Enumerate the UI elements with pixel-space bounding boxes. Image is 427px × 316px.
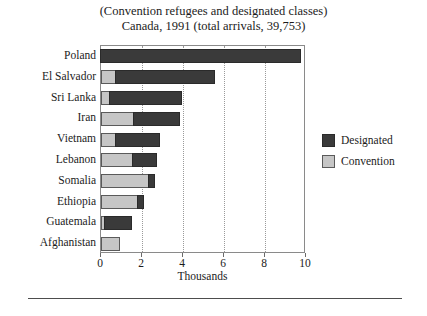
legend-swatch-convention: [322, 155, 335, 168]
y-axis-label-iran: Iran: [0, 111, 96, 124]
x-tick-label-6: 6: [220, 257, 226, 270]
bar-row: [101, 91, 182, 105]
x-axis-title: Thousands: [100, 270, 305, 282]
bar-segment-designated: [132, 153, 158, 167]
x-tick-label-8: 8: [261, 257, 267, 270]
bar-segment-designated: [133, 112, 180, 126]
y-axis-label-vietnam: Vietnam: [0, 132, 96, 145]
chart-legend: DesignatedConvention: [322, 131, 422, 173]
x-tick-label-2: 2: [138, 257, 144, 270]
y-axis-label-lebanon: Lebanon: [0, 153, 96, 166]
bar-segment-designated: [137, 195, 144, 209]
bar-segment-designated: [148, 174, 155, 188]
x-tick-label-0: 0: [97, 257, 103, 270]
bar-segment-designated: [115, 133, 160, 147]
bar-row: [101, 174, 155, 188]
chart-title-block: (Convention refugees and designated clas…: [0, 4, 427, 34]
bar-segment-convention: [101, 195, 138, 209]
bar-row: [101, 49, 301, 63]
legend-label-convention: Convention: [341, 155, 395, 168]
chart-title-line-2: Canada, 1991 (total arrivals, 39,753): [0, 19, 427, 34]
bar-row: [101, 112, 180, 126]
y-axis-label-ethiopia: Ethiopia: [0, 195, 96, 208]
bar-row: [101, 216, 132, 230]
bar-segment-convention: [101, 112, 134, 126]
legend-item-convention: Convention: [322, 152, 422, 171]
footer-divider: [28, 298, 402, 299]
y-axis-category-labels: PolandEl SalvadorSri LankaIranVietnamLeb…: [0, 45, 96, 253]
bars-layer: [101, 46, 304, 252]
bar-segment-convention: [101, 237, 120, 251]
bar-row: [101, 153, 157, 167]
plot-area: [100, 45, 305, 253]
y-axis-label-el-salvador: El Salvador: [0, 70, 96, 83]
bar-row: [101, 195, 144, 209]
y-axis-label-poland: Poland: [0, 49, 96, 62]
bar-segment-designated: [100, 49, 301, 63]
bar-segment-designated: [115, 70, 214, 84]
bar-segment-convention: [101, 133, 116, 147]
chart-figure: (Convention refugees and designated clas…: [0, 0, 427, 316]
bar-row: [101, 133, 160, 147]
bar-segment-convention: [101, 174, 149, 188]
bar-segment-convention: [101, 70, 116, 84]
bar-segment-designated: [109, 91, 182, 105]
chart-title-line-1: (Convention refugees and designated clas…: [0, 4, 427, 19]
x-tick-label-10: 10: [299, 257, 311, 270]
bar-segment-designated: [104, 216, 132, 230]
y-axis-label-somalia: Somalia: [0, 174, 96, 187]
y-axis-label-sri-lanka: Sri Lanka: [0, 91, 96, 104]
legend-item-designated: Designated: [322, 131, 422, 150]
legend-label-designated: Designated: [341, 134, 393, 147]
x-axis: 0246810: [100, 253, 305, 271]
x-tick-label-4: 4: [179, 257, 185, 270]
bar-row: [101, 237, 120, 251]
bar-row: [101, 70, 215, 84]
legend-swatch-designated: [322, 134, 335, 147]
y-axis-label-guatemala: Guatemala: [0, 215, 96, 228]
bar-segment-convention: [101, 153, 133, 167]
y-axis-label-afghanistan: Afghanistan: [0, 236, 96, 249]
